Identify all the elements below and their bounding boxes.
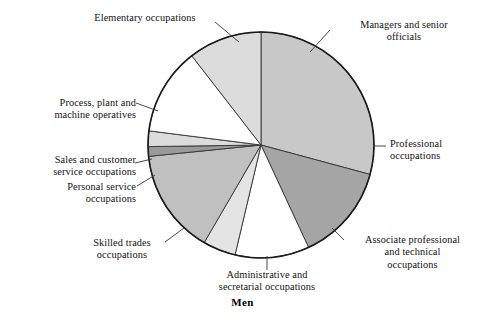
leader-line-skilled-trades <box>165 228 184 242</box>
slice-label-associate-professional: Associate professional and technical occ… <box>340 234 485 271</box>
slice-label-skilled-trades-occupations: Skilled trades occupations <box>78 237 166 262</box>
slice-label-process-plant-machine-operatives: Process, plant and machine operatives <box>12 97 136 122</box>
pie-chart-figure: Elementary occupations Managers and seni… <box>0 0 485 323</box>
slice-label-personal-service-occupations: Personal service occupations <box>10 181 136 206</box>
leader-line-personal-service <box>137 175 155 186</box>
slice-label-elementary-occupations: Elementary occupations <box>60 12 230 24</box>
slice-label-professional-occupations: Professional occupations <box>390 138 485 163</box>
slice-label-sales-and-customer-service: Sales and customer service occupations <box>4 154 136 179</box>
pie-slices-group <box>148 32 374 258</box>
chart-caption: Men <box>0 296 485 308</box>
slice-label-managers-and-senior-officials: Managers and senior officials <box>330 19 478 44</box>
slice-label-administrative-and-secretarial: Administrative and secretarial occupatio… <box>186 269 348 294</box>
